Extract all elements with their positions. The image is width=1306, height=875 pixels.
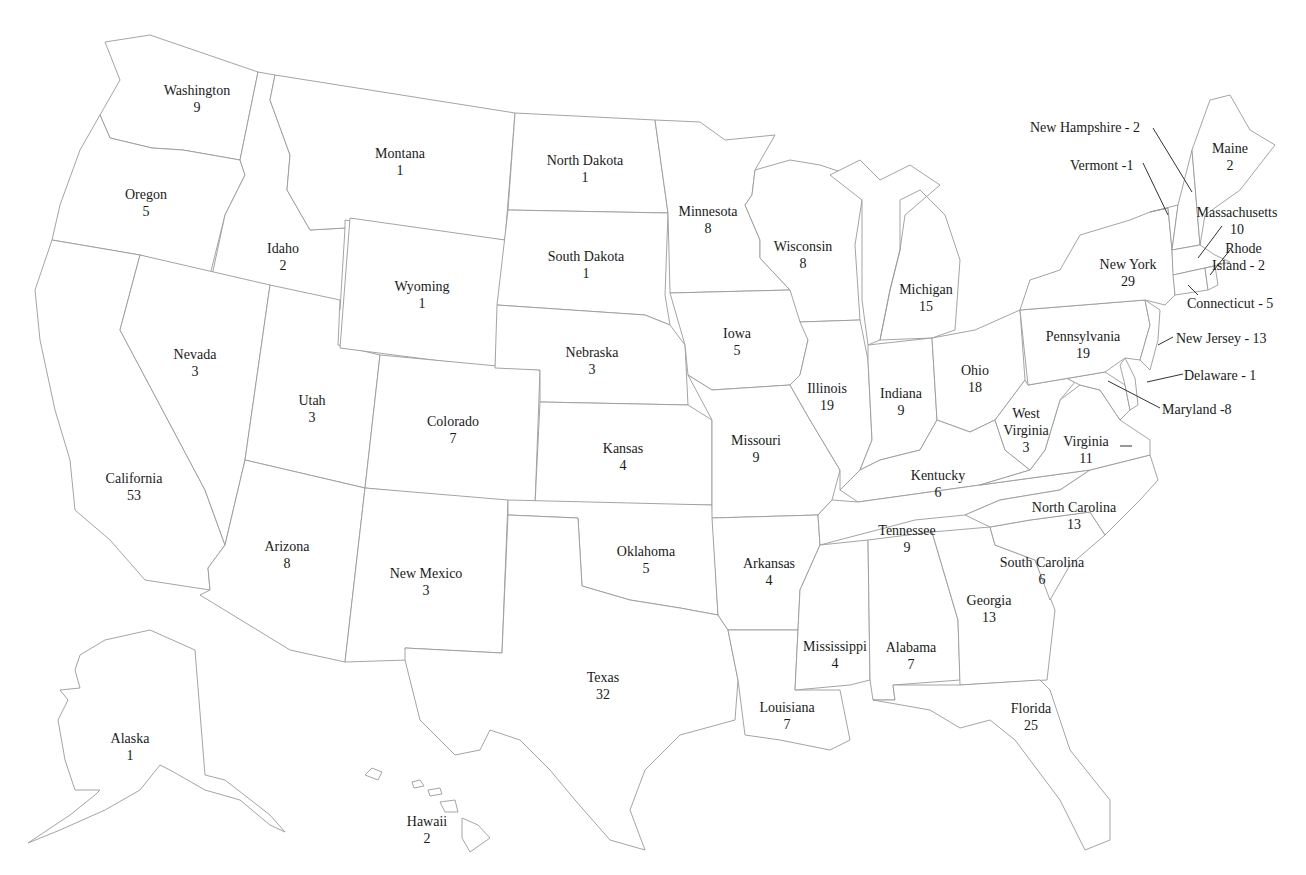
label-minnesota: Minnesota8	[678, 203, 737, 237]
label-ohio: Ohio18	[961, 362, 989, 396]
callout-new-jersey: New Jersey - 13	[1176, 330, 1267, 347]
label-arkansas: Arkansas4	[743, 555, 795, 589]
label-kansas: Kansas4	[603, 440, 643, 474]
label-tennessee: Tennessee9	[878, 522, 935, 556]
label-utah: Utah3	[298, 392, 325, 426]
label-wisconsin: Wisconsin8	[774, 238, 833, 272]
label-pennsylvania: Pennsylvania19	[1046, 328, 1121, 362]
label-nebraska: Nebraska3	[566, 344, 619, 378]
label-hawaii: Hawaii2	[407, 813, 447, 847]
leader-line-nh	[1153, 128, 1192, 192]
label-alabama: Alabama7	[886, 639, 937, 673]
label-virginia: Virginia11	[1063, 433, 1109, 467]
leader-line-nj	[1158, 337, 1173, 345]
label-oregon: Oregon5	[125, 186, 167, 220]
callout-connecticut: Connecticut - 5	[1187, 295, 1273, 312]
label-new-mexico: New Mexico3	[390, 565, 463, 599]
label-wyoming: Wyoming1	[394, 278, 449, 312]
state-alaska[interactable]	[28, 630, 285, 843]
label-north-carolina: North Carolina13	[1032, 499, 1116, 533]
label-washington: Washington9	[164, 82, 231, 116]
label-south-dakota: South Dakota1	[548, 248, 625, 282]
label-michigan: Michigan15	[899, 281, 953, 315]
label-arizona: Arizona8	[264, 538, 309, 572]
label-montana: Montana1	[375, 145, 425, 179]
label-south-carolina: South Carolina6	[1000, 554, 1084, 588]
label-louisiana: Louisiana7	[759, 699, 814, 733]
label-missouri: Missouri9	[731, 432, 781, 466]
callout-maryland: Maryland -8	[1162, 401, 1232, 418]
label-alaska: Alaska1	[111, 730, 150, 764]
label-iowa: Iowa5	[723, 325, 751, 359]
callout-rhode-island: RhodeIsland - 2	[1222, 240, 1265, 274]
label-nevada: Nevada3	[174, 346, 217, 380]
label-indiana: Indiana9	[880, 385, 922, 419]
label-texas: Texas32	[587, 669, 619, 703]
label-north-dakota: North Dakota1	[547, 152, 624, 186]
state-florida[interactable]	[873, 680, 1110, 850]
label-west-virginia: West Virginia3	[991, 405, 1061, 456]
callout-delaware: Delaware - 1	[1184, 367, 1256, 384]
label-illinois: Illinois19	[807, 380, 847, 414]
label-oklahoma: Oklahoma5	[617, 543, 675, 577]
label-colorado: Colorado7	[427, 413, 479, 447]
leader-line-de	[1147, 374, 1183, 382]
leader-line-vt	[1143, 163, 1168, 215]
label-new-york: New York29	[1100, 256, 1157, 290]
label-florida: Florida25	[1011, 700, 1051, 734]
label-maine: Maine2	[1212, 140, 1248, 174]
label-massachusetts: Massachusetts10	[1197, 204, 1278, 238]
callout-vermont: Vermont -1	[1070, 157, 1133, 174]
label-georgia: Georgia13	[967, 592, 1012, 626]
label-kentucky: Kentucky6	[911, 467, 965, 501]
label-california: California53	[106, 470, 163, 504]
label-mississippi: Mississippi4	[803, 638, 867, 672]
callout-new-hampshire: New Hampshire - 2	[1030, 119, 1140, 136]
label-idaho: Idaho2	[267, 240, 299, 274]
